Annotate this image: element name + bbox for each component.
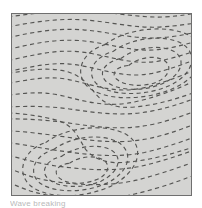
contour-line	[12, 136, 191, 156]
contour-figure: Wave breaking	[0, 0, 202, 208]
contour-line	[12, 19, 191, 27]
contour-line	[81, 29, 191, 98]
contour-line	[12, 29, 191, 38]
open-contours	[12, 14, 191, 195]
contour-line	[12, 97, 191, 114]
contour-line	[114, 57, 169, 85]
figure-caption: Wave breaking	[10, 199, 195, 208]
plot-area	[11, 13, 192, 196]
contour-lines-group	[12, 14, 191, 195]
contour-line	[12, 14, 191, 17]
upper-vortex-contours	[81, 29, 191, 98]
contour-line	[12, 123, 191, 142]
lower-vortex-contours	[23, 128, 138, 195]
contour-line	[12, 69, 191, 107]
contour-line	[23, 128, 138, 195]
